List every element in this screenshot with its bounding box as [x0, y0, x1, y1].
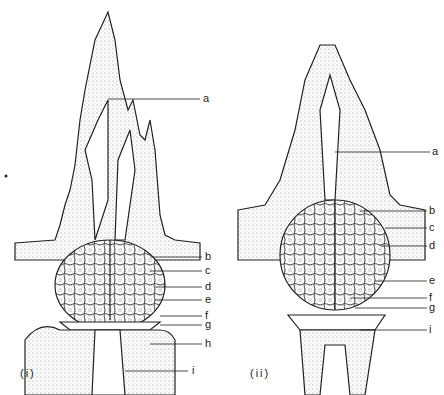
- panel-ii-label-g: g: [429, 302, 435, 313]
- panel-i-drawing: [15, 12, 200, 395]
- panel-i-label-i: i: [192, 365, 194, 376]
- panel-ii-label-b: b: [429, 205, 435, 216]
- panel-i-label-a: a: [203, 93, 209, 104]
- panel-ii-label-i: i: [429, 324, 431, 335]
- panel-i-label-h: h: [205, 338, 211, 349]
- panel-i-label-g: g: [205, 319, 211, 330]
- panel-ii-label-c: c: [429, 222, 435, 233]
- figure-drawing: [0, 0, 444, 395]
- panel-i-label-b: b: [205, 251, 211, 262]
- panel-ii-drawing: [238, 45, 425, 395]
- panel-i-label-e: e: [205, 294, 211, 305]
- panel-i-label-d: d: [205, 281, 211, 292]
- panel-i-caption: (i): [20, 367, 36, 379]
- panel-ii-label-e: e: [429, 275, 435, 286]
- panel-ii-caption: (ii): [250, 367, 270, 379]
- panel-ii-label-d: d: [429, 240, 435, 251]
- panel-i-label-c: c: [205, 265, 211, 276]
- panel-ii-label-a: a: [432, 146, 438, 157]
